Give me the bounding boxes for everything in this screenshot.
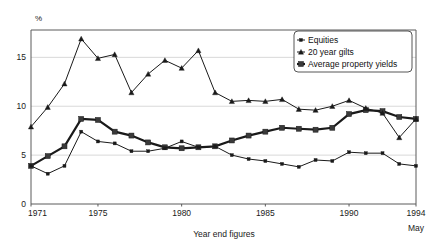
x-tick-label: 1985 <box>256 208 275 218</box>
x-axis-title: Year end figures <box>193 229 255 239</box>
series-line <box>31 110 416 166</box>
data-point-marker <box>196 48 201 53</box>
data-point-marker <box>197 146 200 149</box>
data-point-marker <box>130 150 133 153</box>
y-tick-label: 10 <box>17 101 27 111</box>
data-point-marker <box>263 129 268 134</box>
chart-container: 051015 197119751980198519901994 Equities… <box>0 0 439 250</box>
data-point-marker <box>348 151 351 154</box>
data-point-marker <box>398 162 401 165</box>
data-point-marker <box>113 142 116 145</box>
data-point-marker <box>299 62 304 67</box>
legend-label: Average property yields <box>308 59 397 69</box>
data-point-marker <box>314 159 317 162</box>
data-point-marker <box>415 164 418 167</box>
data-point-marker <box>112 52 117 57</box>
x-axis-last-tick-sublabel: May <box>408 223 425 233</box>
x-tick-label: 1990 <box>340 208 359 218</box>
data-point-marker <box>300 39 303 42</box>
x-tick-label: 1971 <box>28 208 47 218</box>
legend-entry[interactable]: Average property yields <box>297 59 397 69</box>
y-tick-label: 0 <box>21 199 26 209</box>
legend-label: Equities <box>308 35 338 45</box>
data-point-marker <box>62 144 67 149</box>
chart-legend: Equities20 year giltsAverage property yi… <box>294 31 412 72</box>
data-point-marker <box>79 36 84 41</box>
data-point-marker <box>331 159 334 162</box>
legend-label: 20 year gilts <box>308 47 354 57</box>
data-point-marker <box>213 90 218 95</box>
y-axis-unit-label: % <box>35 14 42 23</box>
data-point-marker <box>112 129 117 134</box>
data-point-marker <box>297 165 300 168</box>
data-point-marker <box>364 152 367 155</box>
data-point-marker <box>45 154 50 159</box>
y-tick-label: 5 <box>21 150 26 160</box>
x-tick-label: 1994 <box>407 208 426 218</box>
line-chart: 051015 197119751980198519901994 Equities… <box>0 0 439 250</box>
x-axis-tick-labels: 197119751980198519901994 <box>28 204 426 218</box>
data-point-marker <box>79 116 84 121</box>
data-point-marker <box>214 145 217 148</box>
data-point-marker <box>162 58 167 63</box>
x-tick-label: 1980 <box>172 208 191 218</box>
data-point-marker <box>147 150 150 153</box>
data-point-marker <box>246 133 251 138</box>
y-tick-label: 15 <box>17 52 27 62</box>
data-point-marker <box>146 140 151 145</box>
data-point-marker <box>264 159 267 162</box>
data-point-marker <box>347 112 352 117</box>
data-point-marker <box>95 117 100 122</box>
series-2 <box>29 108 419 169</box>
data-point-marker <box>96 140 99 143</box>
data-point-marker <box>180 140 183 143</box>
data-point-marker <box>30 164 33 167</box>
series-0 <box>30 130 418 175</box>
data-point-marker <box>313 127 318 132</box>
data-point-marker <box>129 133 134 138</box>
data-point-marker <box>397 115 402 120</box>
data-point-marker <box>46 172 49 175</box>
data-point-marker <box>179 146 184 151</box>
data-point-marker <box>163 147 166 150</box>
data-point-marker <box>247 158 250 161</box>
data-point-marker <box>296 126 301 131</box>
data-point-marker <box>230 154 233 157</box>
data-point-marker <box>280 125 285 130</box>
series-line <box>31 132 416 174</box>
data-point-marker <box>346 98 351 103</box>
x-tick-label: 1975 <box>88 208 107 218</box>
data-point-marker <box>80 130 83 133</box>
data-point-marker <box>229 138 234 143</box>
y-axis-tick-labels: 051015 <box>17 52 27 209</box>
data-point-marker <box>62 81 67 86</box>
data-point-marker <box>381 152 384 155</box>
data-point-marker <box>281 162 284 165</box>
data-point-marker <box>63 164 66 167</box>
data-point-marker <box>330 125 335 130</box>
